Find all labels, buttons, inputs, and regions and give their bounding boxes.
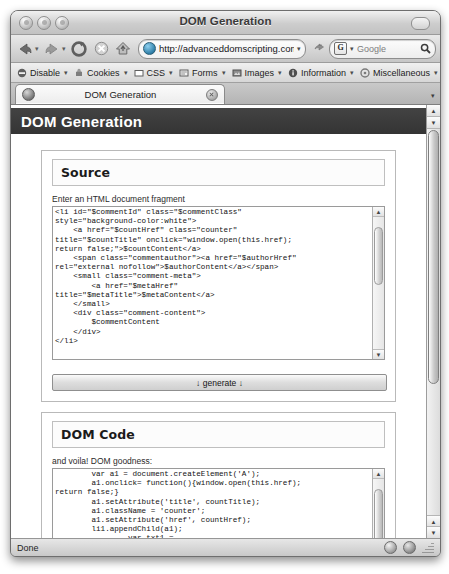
window-title: DOM Generation	[11, 15, 440, 27]
source-panel: Source Enter an HTML document fragment <…	[41, 150, 396, 402]
tab-bar: DOM Generation ▾	[11, 83, 440, 105]
devbar-item-css[interactable]: CSS ▾	[131, 68, 177, 78]
site-favicon	[22, 88, 35, 101]
devbar-caret-icon[interactable]: ▾	[124, 69, 128, 77]
devbar-label: Images	[245, 68, 275, 78]
miscellaneous-icon	[360, 68, 370, 78]
css-icon	[134, 68, 144, 78]
magnifier-icon[interactable]	[420, 43, 431, 54]
source-panel-heading-box: Source	[52, 159, 385, 186]
scroll-up-icon[interactable]: ▲	[373, 207, 384, 217]
go-arrow-icon[interactable]	[311, 43, 325, 55]
forward-history-caret-icon[interactable]: ▾	[62, 45, 66, 53]
devbar-item-disable[interactable]: Disable ▾	[14, 68, 71, 78]
devbar-item-miscellaneous[interactable]: Miscellaneous ▾	[357, 68, 440, 78]
forward-arrow-icon[interactable]	[42, 39, 62, 59]
cookies-icon	[74, 68, 84, 78]
status-text: Done	[17, 543, 378, 553]
page-scroll-down-top-icon[interactable]: ▼	[427, 117, 440, 129]
site-identity-icon	[143, 42, 156, 55]
devbar-caret-icon[interactable]: ▾	[350, 69, 354, 77]
dom-heading: DOM Code	[61, 427, 376, 442]
navigation-toolbar: ▾ ▾ http://advance	[11, 35, 440, 63]
close-tab-icon[interactable]	[206, 89, 218, 101]
tab-list-caret-icon[interactable]: ▾	[431, 92, 435, 100]
security-indicator-icon[interactable]	[384, 541, 397, 554]
web-page: DOM Generation Source Enter an HTML docu…	[11, 105, 426, 538]
url-dropdown-icon[interactable]: ▾	[297, 45, 301, 53]
scroll-thumb[interactable]	[374, 227, 383, 285]
devbar-item-cookies[interactable]: Cookies ▾	[71, 68, 131, 78]
devbar-caret-icon[interactable]: ▾	[64, 69, 68, 77]
reload-icon[interactable]	[69, 39, 89, 59]
forms-icon	[179, 68, 189, 78]
scroll-thumb[interactable]	[374, 489, 383, 538]
search-bar[interactable]: G ▾ Google	[329, 39, 436, 59]
page-scroll-thumb[interactable]	[428, 130, 439, 384]
page-scroll-down-icon[interactable]: ▼	[427, 526, 440, 538]
devbar-item-forms[interactable]: Forms ▾	[176, 68, 229, 78]
source-hint: Enter an HTML document fragment	[52, 194, 385, 204]
tab-label: DOM Generation	[41, 89, 200, 100]
dom-code-textarea[interactable]: var a1 = document.createElement('A'); a1…	[52, 468, 385, 538]
page-header-band: DOM Generation	[11, 108, 426, 134]
page-scrollbar[interactable]: ▲ ▼ ▲ ▼	[426, 105, 440, 538]
devbar-label: CSS	[147, 68, 166, 78]
source-code-text[interactable]: <li id="$commentId" class="$commentClass…	[53, 207, 372, 359]
dom-scrollbar[interactable]: ▲ ▼	[372, 469, 384, 538]
page-body: Source Enter an HTML document fragment <…	[11, 134, 426, 538]
privacy-indicator-icon[interactable]	[403, 541, 416, 554]
source-scrollbar[interactable]: ▲ ▼	[372, 207, 384, 359]
resize-grip-icon[interactable]	[422, 542, 434, 554]
window-title-bar: DOM Generation	[11, 11, 440, 35]
devbar-caret-icon[interactable]: ▾	[222, 69, 226, 77]
images-icon	[232, 68, 242, 78]
information-icon	[288, 68, 298, 78]
dom-code-text[interactable]: var a1 = document.createElement('A'); a1…	[53, 469, 372, 538]
address-bar[interactable]: http://advanceddomscripting.com/ ▾	[138, 39, 306, 59]
tab-dom-generation[interactable]: DOM Generation	[15, 84, 225, 104]
devbar-label: Cookies	[87, 68, 120, 78]
generate-button-wrap: ↓ generate ↓	[52, 374, 385, 391]
stop-icon[interactable]	[91, 39, 111, 59]
scroll-down-icon[interactable]: ▼	[373, 349, 384, 359]
devbar-caret-icon[interactable]: ▾	[278, 69, 282, 77]
devbar-label: Disable	[30, 68, 60, 78]
generate-button[interactable]: ↓ generate ↓	[52, 374, 387, 391]
search-engine-caret-icon[interactable]: ▾	[350, 45, 354, 53]
page-scroll-up-icon[interactable]: ▲	[427, 105, 440, 117]
source-heading: Source	[61, 165, 376, 180]
back-arrow-icon[interactable]	[15, 39, 35, 59]
page-title: DOM Generation	[21, 113, 142, 130]
dom-code-panel: DOM Code and voila! DOM goodness: var a1…	[41, 412, 396, 538]
devbar-caret-icon[interactable]: ▾	[169, 69, 173, 77]
status-bar: Done	[11, 538, 440, 556]
dom-hint: and voila! DOM goodness:	[52, 456, 385, 466]
scroll-up-icon[interactable]: ▲	[373, 469, 384, 479]
back-history-caret-icon[interactable]: ▾	[35, 45, 39, 53]
content-viewport: DOM Generation Source Enter an HTML docu…	[11, 105, 440, 538]
devbar-item-images[interactable]: Images ▾	[229, 68, 286, 78]
home-icon[interactable]	[113, 39, 133, 59]
devbar-label: Forms	[192, 68, 218, 78]
disable-icon	[17, 68, 27, 78]
browser-window: DOM Generation ▾ ▾	[10, 10, 441, 557]
devbar-item-information[interactable]: Information ▾	[285, 68, 357, 78]
source-textarea[interactable]: <li id="$commentId" class="$commentClass…	[52, 206, 385, 360]
toolbar-toggle-button[interactable]	[411, 17, 430, 30]
devbar-label: Miscellaneous	[373, 68, 430, 78]
web-developer-toolbar: Disable ▾ Cookies ▾ CSS ▾ Forms ▾	[11, 63, 440, 83]
url-text[interactable]: http://advanceddomscripting.com/	[159, 43, 294, 54]
search-input[interactable]: Google	[357, 44, 417, 54]
dom-panel-heading-box: DOM Code	[52, 421, 385, 448]
devbar-label: Information	[301, 68, 346, 78]
devbar-caret-icon[interactable]: ▾	[434, 69, 438, 77]
google-engine-icon[interactable]: G	[334, 42, 347, 55]
